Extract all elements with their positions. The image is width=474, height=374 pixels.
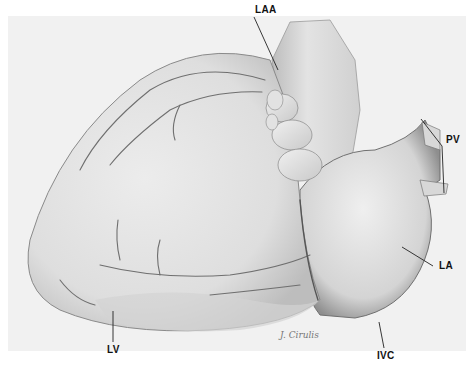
- label-pv: PV: [446, 135, 460, 145]
- label-la: LA: [439, 261, 453, 271]
- leader-ivc: [379, 322, 384, 348]
- label-lv: LV: [107, 345, 120, 355]
- label-ivc: IVC: [377, 351, 395, 361]
- heart-illustration: [0, 0, 474, 374]
- artist-signature: J. Cirulis: [280, 330, 319, 340]
- label-laa: LAA: [255, 5, 276, 15]
